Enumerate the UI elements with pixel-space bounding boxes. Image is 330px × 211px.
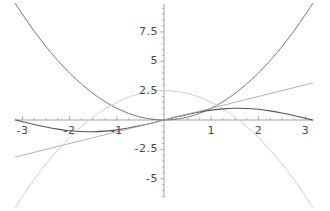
y-tick-label: 5	[151, 55, 159, 66]
x-tick-label: 2	[238, 125, 278, 136]
x-tick-label: -2	[50, 125, 90, 136]
x-tick-label: 1	[191, 125, 231, 136]
plot-canvas	[0, 0, 330, 211]
plot-figure: 7.552.5-2.5-5-3-2-1123	[0, 0, 330, 211]
y-axis-major-ticks	[160, 32, 164, 179]
y-tick-label: 7.5	[139, 26, 158, 37]
y-tick-label: 2.5	[139, 85, 158, 96]
y-tick-label: -2.5	[135, 143, 158, 154]
x-tick-label: -3	[2, 125, 42, 136]
x-tick-label: -1	[97, 125, 137, 136]
y-tick-label: -5	[146, 173, 158, 184]
x-tick-label: 3	[286, 125, 326, 136]
